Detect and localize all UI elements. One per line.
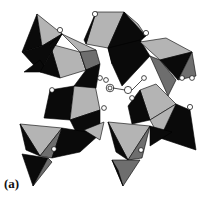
framework-structure-diagram [0,0,210,202]
panel-label: (a) [4,176,19,192]
polyhedra-drawing [0,0,210,202]
